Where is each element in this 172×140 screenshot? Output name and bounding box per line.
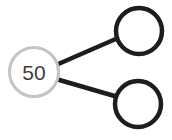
part-circle-top[interactable]: [116, 8, 162, 54]
number-bond-diagram: 50: [0, 0, 172, 140]
number-bond-svg: 50: [0, 0, 172, 140]
connector-line-top: [56, 38, 118, 65]
connector-line-bottom: [56, 79, 118, 97]
part-circle-bottom[interactable]: [115, 81, 161, 127]
whole-value: 50: [22, 61, 45, 84]
